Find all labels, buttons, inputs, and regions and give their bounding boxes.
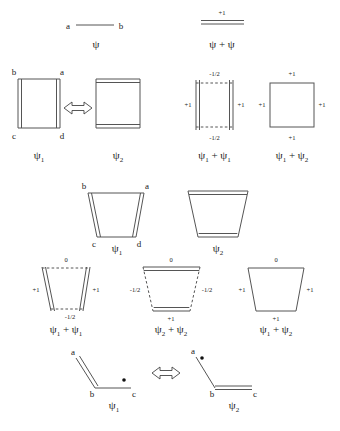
- trap-left-edge-dashed: [143, 267, 153, 311]
- weight-right: -1/2: [202, 286, 212, 293]
- weight-right: +1: [319, 101, 326, 108]
- weight-left: +1: [185, 101, 192, 108]
- weight-bottom: +1: [289, 134, 296, 141]
- trap-psi1-psi2: 0 +1 +1 +1 ψ1 + ψ2: [239, 256, 314, 338]
- node-label-b: b: [210, 389, 215, 399]
- row-2-squares: b a c d ψ1 ψ2 -1/2: [12, 67, 326, 164]
- trap-outline: [248, 268, 304, 311]
- node-label-b: b: [82, 181, 87, 191]
- caption-psi2-plus-psi2: ψ2 + ψ2: [155, 323, 188, 338]
- arrow-row2: [64, 102, 92, 114]
- figure-svg: a b ψ +1 ψ + ψ b a c d ψ1: [0, 0, 340, 431]
- weight-right: +1: [93, 286, 100, 293]
- weight-bottom: -1/2: [65, 313, 75, 320]
- weight-top: +1: [219, 9, 226, 16]
- caption-psi-plus-psi: ψ + ψ: [209, 38, 235, 50]
- node-label-a: a: [60, 67, 64, 77]
- caption-psi1: ψ1: [109, 399, 120, 414]
- trap-right-edge-dashed: [190, 267, 200, 311]
- double-arrow-icon: [64, 102, 92, 114]
- weight-left: +1: [33, 286, 40, 293]
- weight-bottom: +1: [273, 315, 280, 322]
- marked-point-dot: [200, 356, 204, 360]
- caption-psi: ψ: [93, 38, 100, 50]
- caption-psi1: ψ1: [34, 149, 45, 164]
- path-ab-edge: [196, 357, 215, 388]
- path-ab-edge-inner: [80, 356, 99, 386]
- square-outline: [270, 83, 314, 127]
- caption-psi2: ψ2: [229, 399, 240, 414]
- arrow-row5: [152, 367, 180, 379]
- weight-right: +1: [307, 286, 314, 293]
- weight-right: +1: [238, 101, 245, 108]
- node-label-b: b: [119, 21, 124, 31]
- row-4-trapezoid-sums: 0 -1/2 +1 +1 ψ1 + ψ1 0 +1 -1/2 -1/2 ψ2 +…: [33, 256, 314, 338]
- single-edge-diagram: a b ψ: [66, 21, 124, 51]
- weight-top: -1/2: [209, 70, 219, 77]
- weight-top: +1: [289, 70, 296, 77]
- node-label-c: c: [12, 131, 16, 141]
- caption-psi2: ψ2: [113, 149, 124, 164]
- marked-point-dot: [122, 378, 126, 382]
- weight-top: 0: [169, 256, 172, 263]
- row-3-trapezoids: b a c d ψ1 ψ2: [82, 181, 248, 257]
- node-label-a: a: [66, 21, 70, 31]
- double-arrow-icon: [152, 367, 180, 379]
- caption-psi1-plus-psi1: ψ1 + ψ1: [50, 323, 83, 338]
- node-label-a: a: [145, 181, 149, 191]
- weight-bottom: +1: [168, 315, 175, 322]
- trap-psi2: ψ2: [188, 191, 248, 257]
- row-1-edge: a b ψ +1 ψ + ψ: [66, 9, 244, 50]
- trap-psi1: b a c d ψ1: [82, 181, 149, 257]
- trap-psi1-psi1: 0 -1/2 +1 +1 ψ1 + ψ1: [33, 256, 100, 338]
- caption-psi1: ψ1: [112, 242, 123, 257]
- weight-top: 0: [274, 256, 277, 263]
- caption-psi1-plus-psi2: ψ1 + ψ2: [260, 323, 293, 338]
- trap-right-edge: [238, 191, 248, 237]
- node-label-b: b: [90, 389, 95, 399]
- row-5-paths: a b c ψ1 a b c ψ2: [71, 346, 257, 414]
- trap-right-edge-outer: [136, 193, 144, 237]
- figure-container: a b ψ +1 ψ + ψ b a c d ψ1: [0, 0, 340, 431]
- weight-top: 0: [64, 256, 67, 263]
- weight-bottom: -1/2: [209, 134, 219, 141]
- weight-left: +1: [239, 286, 246, 293]
- square-psi1-psi1: -1/2 -1/2 +1 +1 ψ1 + ψ1: [185, 70, 245, 164]
- trap-right-edge-inner: [80, 267, 87, 311]
- node-label-c: c: [253, 389, 257, 399]
- path-ab-edge-outer: [76, 358, 95, 388]
- node-label-d: d: [137, 239, 142, 249]
- caption-psi1-plus-psi2: ψ1 + ψ2: [276, 149, 309, 164]
- node-label-a: a: [71, 347, 75, 357]
- square-psi1-psi2: +1 +1 +1 +1 ψ1 + ψ2: [259, 70, 326, 164]
- node-label-d: d: [60, 131, 65, 141]
- node-label-b: b: [12, 67, 17, 77]
- square-psi1: b a c d ψ1: [12, 67, 65, 164]
- trap-psi2-psi2: 0 +1 -1/2 -1/2 ψ2 + ψ2: [130, 256, 212, 338]
- path-psi1: a b c ψ1: [71, 347, 136, 414]
- node-label-a: a: [191, 346, 195, 356]
- caption-psi1-plus-psi1: ψ1 + ψ1: [198, 149, 231, 164]
- trap-right-edge-inner: [133, 193, 141, 237]
- trap-right-edge-outer: [83, 267, 90, 311]
- trap-left-edge: [188, 191, 198, 237]
- double-edge-diagram: +1 ψ + ψ: [201, 9, 244, 50]
- square-psi2: ψ2: [96, 79, 140, 164]
- weight-left: +1: [259, 101, 266, 108]
- weight-left: -1/2: [130, 286, 140, 293]
- node-label-c: c: [92, 239, 96, 249]
- node-label-c: c: [132, 389, 136, 399]
- path-psi2: a b c ψ2: [191, 346, 257, 414]
- caption-psi2: ψ2: [213, 242, 224, 257]
